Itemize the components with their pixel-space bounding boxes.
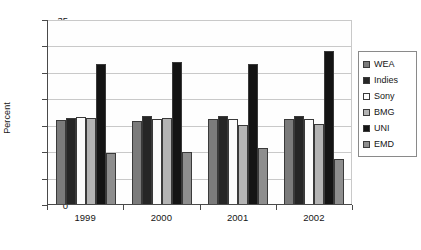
bar-bmg-1999 [86, 118, 96, 204]
bar-wea-2001 [208, 119, 218, 204]
bar-wea-2000 [132, 121, 142, 205]
chart-legend: WEAIndiesSonyBMGUNIEMD [358, 51, 417, 157]
legend-item-label: EMD [374, 139, 394, 149]
legend-item-indies[interactable]: Indies [363, 72, 413, 88]
bar-uni-1999 [96, 64, 106, 204]
y-axis-title: Percent [2, 0, 12, 78]
bar-indies-2001 [218, 116, 228, 204]
legend-swatch-icon [363, 61, 370, 68]
bar-indies-2002 [294, 116, 304, 204]
bar-sony-1999 [76, 117, 86, 204]
bar-indies-1999 [66, 118, 76, 204]
bar-emd-2001 [258, 148, 268, 204]
x-axis-tick-mark [276, 205, 277, 210]
bar-group [276, 20, 352, 204]
plot-area [47, 20, 352, 205]
bar-group [124, 20, 200, 204]
bar-uni-2000 [172, 62, 182, 204]
legend-item-wea[interactable]: WEA [363, 56, 413, 72]
legend-item-label: Sony [374, 91, 395, 101]
legend-item-label: Indies [374, 75, 398, 85]
x-axis-tick-label: 2002 [276, 212, 352, 223]
bar-emd-2002 [334, 159, 344, 204]
bar-wea-1999 [56, 120, 66, 204]
legend-swatch-icon [363, 141, 370, 148]
x-axis-tick-label: 2001 [200, 212, 276, 223]
bar-sony-2002 [304, 119, 314, 204]
bar-bmg-2000 [162, 118, 172, 204]
bar-groups [48, 20, 352, 204]
bar-sony-2001 [228, 119, 238, 204]
bar-chart: Percent 05101520253035 1999200020012002 … [0, 0, 421, 250]
x-axis-tick-label: 2000 [123, 212, 199, 223]
x-axis-tick-label: 1999 [47, 212, 123, 223]
bar-wea-2002 [284, 119, 294, 204]
legend-item-uni[interactable]: UNI [363, 120, 413, 136]
legend-swatch-icon [363, 93, 370, 100]
bar-group [48, 20, 124, 204]
x-axis-tick-mark [352, 205, 353, 210]
bar-emd-2000 [182, 152, 192, 204]
legend-swatch-icon [363, 125, 370, 132]
legend-item-sony[interactable]: Sony [363, 88, 413, 104]
bar-sony-2000 [152, 119, 162, 204]
legend-item-label: WEA [374, 59, 395, 69]
bar-emd-1999 [106, 153, 116, 204]
bar-bmg-2002 [314, 124, 324, 204]
x-axis-tick-mark [123, 205, 124, 210]
bar-uni-2001 [248, 64, 258, 204]
x-axis-labels: 1999200020012002 [47, 212, 352, 223]
legend-swatch-icon [363, 77, 370, 84]
legend-item-label: BMG [374, 107, 395, 117]
y-axis-title-label: Percent [2, 78, 12, 158]
x-axis-tick-mark [200, 205, 201, 210]
bar-bmg-2001 [238, 125, 248, 204]
bar-uni-2002 [324, 51, 334, 204]
x-axis-tick-mark [47, 205, 48, 210]
legend-item-emd[interactable]: EMD [363, 136, 413, 152]
bar-indies-2000 [142, 116, 152, 204]
bar-group [200, 20, 276, 204]
legend-item-label: UNI [374, 123, 390, 133]
legend-swatch-icon [363, 109, 370, 116]
legend-item-bmg[interactable]: BMG [363, 104, 413, 120]
